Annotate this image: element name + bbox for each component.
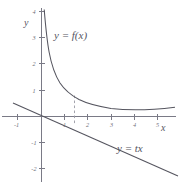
x-tick-label-3: 3 <box>109 121 113 128</box>
curve-annotation-label: y = f(x) <box>53 29 87 42</box>
plot-canvas: -1 1 2 3 4 5 4 3 2 1 -1 -2 y x y = f(x) … <box>0 0 181 185</box>
y-tick-labels: 4 3 2 1 -1 -2 <box>31 8 36 172</box>
x-tick-label-2: 2 <box>86 121 89 128</box>
y-tick-label-1: 1 <box>32 87 35 94</box>
y-tick-label-neg2: -2 <box>31 165 36 172</box>
y-tick-label-neg1: -1 <box>31 139 36 146</box>
x-tick-label-1: 1 <box>63 121 66 128</box>
x-tick-label-neg1: -1 <box>14 121 19 128</box>
y-tick-label-3: 3 <box>31 34 35 41</box>
curve-y-equals-f-of-x <box>44 10 175 110</box>
y-tick-label-2: 2 <box>32 60 35 67</box>
line-y-equals-tx <box>13 103 178 176</box>
x-axis-label: x <box>160 122 166 133</box>
x-tick-label-4: 4 <box>133 121 136 128</box>
y-axis-label: y <box>23 17 29 28</box>
x-tick-labels: -1 1 2 3 4 5 <box>14 121 159 128</box>
x-tick-label-5: 5 <box>156 121 159 128</box>
line-annotation-label: y = tx <box>116 142 143 154</box>
y-tick-label-4: 4 <box>32 8 35 15</box>
function-graph-figure: -1 1 2 3 4 5 4 3 2 1 -1 -2 y x y = f(x) … <box>0 0 181 185</box>
